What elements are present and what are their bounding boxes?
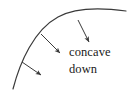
- tangent-arrow-upper-right: [78, 20, 89, 42]
- tangent-arrow-middle: [41, 34, 60, 53]
- concavity-label-line-1: concave: [69, 44, 111, 61]
- concavity-label: concave down: [69, 44, 111, 78]
- concavity-label-line-2: down: [69, 61, 111, 78]
- concave-down-figure: concave down: [0, 0, 130, 93]
- tangent-arrow-lower-left: [22, 62, 41, 75]
